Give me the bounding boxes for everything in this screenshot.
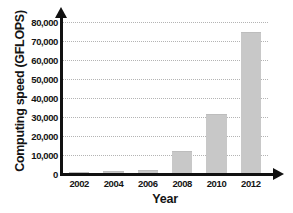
y-axis-tick-label: 30,000 [14, 112, 58, 123]
bar[interactable] [172, 151, 193, 174]
y-axis-tick-label: 40,000 [14, 93, 58, 104]
bar-slot [69, 22, 90, 174]
y-axis-tick-label: 80,000 [14, 17, 58, 28]
x-axis-tick-label: 2004 [104, 178, 124, 189]
y-axis-tick-label: 20,000 [14, 131, 58, 142]
bar-slot [172, 22, 193, 174]
bar-slot [206, 22, 227, 174]
bar-slot [103, 22, 124, 174]
bar[interactable] [206, 114, 227, 174]
x-axis-tick-label: 2010 [207, 178, 227, 189]
y-axis-tick-label: 10,000 [14, 150, 58, 161]
y-axis-line [60, 16, 63, 175]
x-axis-title: Year [62, 192, 268, 206]
x-axis-tick-label: 2012 [241, 178, 261, 189]
x-axis-tick-label: 2006 [138, 178, 158, 189]
y-axis-tick-labels: 010,00020,00030,00040,00050,00060,00070,… [14, 22, 58, 174]
bar-slot [241, 22, 262, 174]
y-axis-tick-label: 0 [14, 169, 58, 180]
y-axis-tick-label: 50,000 [14, 74, 58, 85]
bar[interactable] [241, 32, 262, 174]
bars-group [62, 22, 268, 174]
bar-chart: Computing speed (GFLOPS) 010,00020,00030… [0, 0, 293, 213]
x-axis-tick-labels: 200220042006200820102012 [62, 178, 268, 192]
x-axis-tick-label: 2002 [69, 178, 89, 189]
bar-slot [138, 22, 159, 174]
x-axis-tick-label: 2008 [172, 178, 192, 189]
y-axis-arrow-icon [55, 7, 67, 18]
x-axis-arrow-icon [273, 168, 284, 180]
y-axis-tick-label: 60,000 [14, 55, 58, 66]
y-axis-tick-label: 70,000 [14, 36, 58, 47]
x-axis-line [60, 173, 275, 176]
